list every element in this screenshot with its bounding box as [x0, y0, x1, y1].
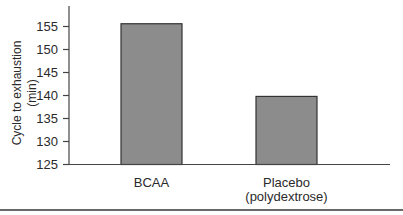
x-category-label: BCAA — [134, 175, 170, 190]
bar-chart: Cycle to exhaustion (min) 12513013514014… — [0, 0, 403, 215]
y-axis-label: Cycle to exhaustion (min) — [10, 41, 39, 146]
y-tick-label: 125 — [36, 157, 58, 172]
y-tick-label: 150 — [36, 42, 58, 57]
y-tick-label: 130 — [36, 134, 58, 149]
y-tick-label: 140 — [36, 88, 58, 103]
y-tick-label: 145 — [36, 65, 58, 80]
y-axis-ticks: 125130135140145150155 — [36, 19, 69, 172]
bar-bcaa — [121, 24, 182, 165]
x-axis-labels: BCAAPlacebo(polydextrose) — [134, 175, 328, 204]
y-axis-label-line-1: Cycle to exhaustion — [10, 41, 24, 146]
y-tick-label: 135 — [36, 111, 58, 126]
bottom-divider — [0, 209, 403, 211]
y-tick-label: 155 — [36, 19, 58, 34]
bars — [121, 24, 317, 165]
bar-placebo — [256, 96, 317, 164]
chart-canvas: Cycle to exhaustion (min) 12513013514014… — [0, 0, 403, 215]
x-category-label: Placebo — [263, 175, 310, 190]
x-category-label: (polydextrose) — [245, 189, 327, 204]
